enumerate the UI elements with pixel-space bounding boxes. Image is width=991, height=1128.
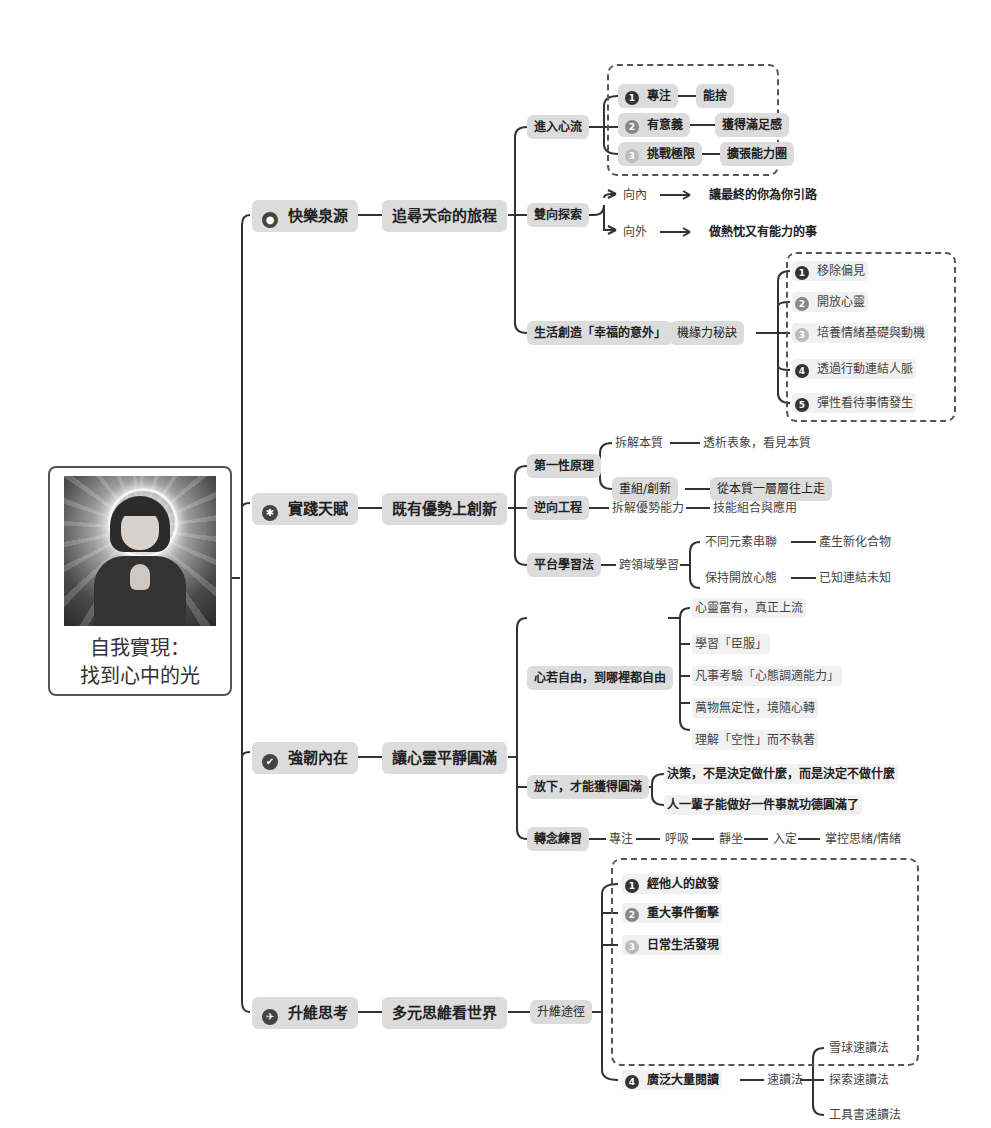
- subtopic-innovate-on-strengths[interactable]: 既有優勢上創新: [382, 493, 507, 525]
- free-mind-item-3[interactable]: 凡事考驗「心態調適能力」: [692, 666, 842, 686]
- chain-step-4[interactable]: 入定: [770, 829, 800, 849]
- ascend-item-2[interactable]: 2重大事件衝擊: [622, 903, 722, 923]
- speed-reading-snowball[interactable]: 雪球速讀法: [826, 1038, 892, 1058]
- node-new-compound[interactable]: 產生新化合物: [816, 532, 894, 552]
- node-satisfaction[interactable]: 獲得滿足感: [715, 113, 789, 137]
- node-connect-elements[interactable]: 不同元素串聯: [702, 532, 780, 552]
- node-see-essence[interactable]: 透析表象，看見本質: [700, 433, 814, 453]
- node-enter-flow[interactable]: 進入心流: [527, 115, 589, 139]
- node-known-to-unknown[interactable]: 已知連結未知: [816, 568, 894, 588]
- node-inward[interactable]: 向內: [620, 185, 650, 205]
- ascend-item-4[interactable]: 4廣泛大量閱讀: [622, 1070, 722, 1090]
- number-1-icon: 1: [625, 91, 639, 105]
- number-4-icon: 4: [625, 1075, 639, 1089]
- chain-step-2[interactable]: 呼吸: [662, 829, 692, 849]
- number-2-icon: 2: [625, 120, 639, 134]
- let-go-item-2[interactable]: 人一輩子能做好一件事就功德圓滿了: [664, 795, 862, 815]
- thumbs-up-icon: ✔: [262, 754, 278, 770]
- subtopic-multiple-perspectives[interactable]: 多元思維看世界: [382, 997, 507, 1029]
- chain-step-1[interactable]: 專注: [606, 829, 636, 849]
- node-mind-shift-practice[interactable]: 轉念練習: [527, 827, 589, 851]
- number-5-icon: 5: [795, 398, 809, 412]
- free-mind-item-2[interactable]: 學習「臣服」: [692, 634, 770, 654]
- central-topic-title: 自我實現： 找到心中的光: [50, 634, 230, 690]
- let-go-item-1[interactable]: 決策，不是決定做什麼，而是決定不做什麼: [664, 764, 898, 784]
- node-first-principles[interactable]: 第一性原理: [527, 454, 601, 478]
- serendipity-item-1[interactable]: 1移除偏見: [792, 261, 868, 281]
- running-icon: ✱: [262, 505, 278, 521]
- node-let-go[interactable]: 能捨: [696, 84, 734, 108]
- node-expand-circle[interactable]: 擴張能力圈: [720, 142, 794, 166]
- free-mind-item-4[interactable]: 萬物無定性，境隨心轉: [692, 698, 818, 718]
- number-1-icon: 1: [625, 879, 639, 893]
- node-serendipity[interactable]: 生活創造「幸福的意外」: [527, 321, 673, 345]
- node-focus[interactable]: 1專注: [618, 84, 678, 108]
- topic-inner-strength[interactable]: ✔強韌內在: [252, 742, 358, 774]
- subtopic-destiny-journey[interactable]: 追尋天命的旅程: [382, 200, 507, 232]
- node-two-way-explore[interactable]: 雙向探索: [527, 203, 589, 227]
- airplane-icon: ✈: [262, 1009, 278, 1025]
- serendipity-item-5[interactable]: 5彈性看待事情發生: [792, 393, 916, 413]
- node-speed-reading[interactable]: 速讀法: [764, 1070, 806, 1090]
- number-3-icon: 3: [625, 940, 639, 954]
- number-3-icon: 3: [795, 328, 809, 342]
- serendipity-item-3[interactable]: 3培養情緒基礎與動機: [792, 323, 928, 343]
- number-3-icon: 3: [625, 149, 639, 163]
- topic-practice-talent[interactable]: ✱實踐天賦: [252, 493, 358, 525]
- person-icon: ●: [262, 212, 278, 228]
- number-1-icon: 1: [795, 266, 809, 280]
- node-free-mind[interactable]: 心若自由，到哪裡都自由: [527, 666, 673, 690]
- number-2-icon: 2: [625, 908, 639, 922]
- portrait-image: [64, 476, 216, 626]
- free-mind-item-5[interactable]: 理解「空性」而不執著: [692, 730, 818, 750]
- ascend-item-1[interactable]: 1經他人的啟發: [622, 874, 722, 894]
- chain-step-3[interactable]: 靜坐: [716, 829, 746, 849]
- subtopic-peaceful-mind[interactable]: 讓心靈平靜圓滿: [382, 742, 507, 774]
- node-serendipity-secret[interactable]: 機緣力秘訣: [670, 321, 744, 345]
- node-reverse-engineering[interactable]: 逆向工程: [527, 496, 589, 520]
- chain-step-5[interactable]: 掌控思緒/情緒: [822, 829, 904, 849]
- node-ascend-path[interactable]: 升維途徑: [530, 1000, 592, 1024]
- central-topic[interactable]: 自我實現： 找到心中的光: [48, 466, 232, 696]
- serendipity-item-2[interactable]: 2開放心靈: [792, 292, 868, 312]
- node-open-mind[interactable]: 保持開放心態: [702, 568, 780, 588]
- node-deconstruct-essence[interactable]: 拆解本質: [612, 433, 666, 453]
- node-challenge-limits[interactable]: 3挑戰極限: [618, 142, 702, 166]
- node-outward-detail[interactable]: 做熱忱又有能力的事: [706, 222, 820, 242]
- topic-happiness-source[interactable]: ●快樂泉源: [252, 200, 358, 232]
- node-outward[interactable]: 向外: [620, 222, 650, 242]
- node-skill-combination[interactable]: 技能組合與應用: [710, 498, 800, 518]
- node-cross-domain[interactable]: 跨領域學習: [616, 555, 682, 575]
- number-2-icon: 2: [795, 297, 809, 311]
- speed-reading-explore[interactable]: 探索速讀法: [826, 1070, 892, 1090]
- serendipity-item-4[interactable]: 4透過行動連結人脈: [792, 359, 916, 379]
- node-inward-detail[interactable]: 讓最終的你為你引路: [706, 185, 820, 205]
- ascend-item-3[interactable]: 3日常生活發現: [622, 935, 722, 955]
- node-meaningful[interactable]: 2有意義: [618, 113, 690, 137]
- node-platform-learning[interactable]: 平台學習法: [527, 553, 601, 577]
- topic-higher-dimension-thinking[interactable]: ✈升維思考: [252, 997, 358, 1029]
- speed-reading-reference[interactable]: 工具書速讀法: [826, 1105, 904, 1125]
- free-mind-item-1[interactable]: 心靈富有，真正上流: [692, 598, 806, 618]
- number-4-icon: 4: [795, 364, 809, 378]
- node-deconstruct-strengths[interactable]: 拆解優勢能力: [609, 498, 687, 518]
- node-let-go-fulfillment[interactable]: 放下，才能獲得圓滿: [527, 775, 649, 799]
